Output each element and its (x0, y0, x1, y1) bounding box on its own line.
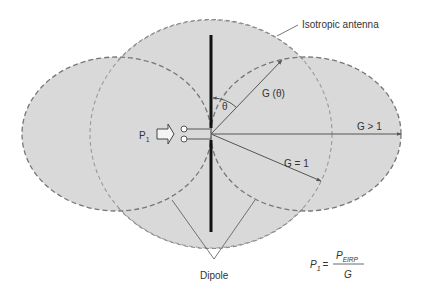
isotropic-antenna-label: Isotropic antenna (302, 19, 379, 30)
gain-theta-label: G (θ) (262, 88, 285, 99)
svg-text:PEIRP: PEIRP (336, 250, 359, 263)
theta-label: θ (222, 101, 228, 112)
svg-text:P1=: P1= (310, 259, 329, 272)
gain-eq1-label: G = 1 (284, 158, 309, 169)
gain-gt1-label: G > 1 (357, 121, 382, 132)
isotropic-leader-line (277, 25, 298, 36)
dipole-label: Dipole (200, 270, 229, 281)
antenna-diagram: Isotropic antenna G (θ) θ G > 1 G = 1 P1… (0, 0, 422, 300)
svg-text:G: G (344, 269, 352, 280)
eirp-formula: P1= PEIRP G (310, 250, 364, 280)
